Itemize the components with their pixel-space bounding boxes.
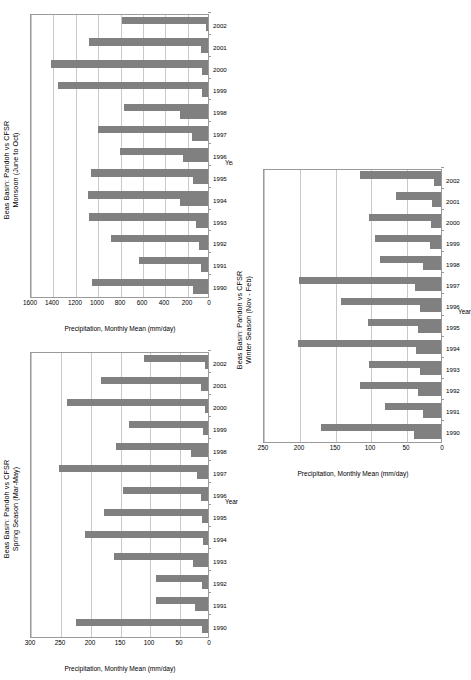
bar-pandoh-1999	[430, 242, 441, 249]
y-axis-tick-label: 1400	[45, 299, 59, 306]
x-axis-tick-label: 1992	[213, 240, 227, 247]
y-axis-tick-label: 0	[440, 444, 444, 451]
x-axis-tick-label: 2000	[213, 404, 227, 411]
bar-pandoh-1999	[202, 89, 208, 96]
bar-pandoh-1991	[423, 410, 441, 417]
y-axis-tick-label: 800	[114, 299, 125, 306]
bar-cfsr-2002	[122, 17, 208, 24]
plot-area	[263, 169, 442, 443]
x-axis-tick-label: 1998	[446, 260, 460, 267]
x-axis-tick	[208, 504, 211, 505]
bar-pandoh-1997	[197, 472, 208, 479]
bar-cfsr-1998	[124, 104, 208, 111]
gridline	[165, 15, 166, 297]
x-axis-tick-label: 1997	[446, 281, 460, 288]
x-axis-tick	[208, 252, 211, 253]
x-axis-tick	[208, 372, 211, 373]
bar-cfsr-2001	[89, 38, 208, 45]
x-axis-tick	[441, 272, 444, 273]
x-axis-tick	[208, 416, 211, 417]
bar-pandoh-2002	[434, 179, 441, 186]
bar-pandoh-1999	[203, 428, 208, 435]
x-axis-tick	[208, 165, 211, 166]
bar-pandoh-1994	[416, 347, 441, 354]
x-axis-tick-label: 1998	[213, 109, 227, 116]
bar-pandoh-1991	[195, 604, 208, 611]
x-axis-tick	[441, 399, 444, 400]
x-axis-tick	[208, 230, 211, 231]
x-axis-tick	[208, 526, 211, 527]
y-axis-tick-label: 250	[54, 639, 65, 646]
bar-pandoh-1995	[202, 516, 208, 523]
chart-spring-container: Beas Basin: Pandoh vs CFSRSpring Season …	[0, 338, 235, 680]
y-axis-tick-label: 100	[365, 444, 376, 451]
x-axis-tick	[208, 350, 211, 351]
bar-cfsr-1994	[298, 340, 441, 347]
y-axis-tick-label: 0	[207, 639, 211, 646]
bar-cfsr-2002	[360, 171, 441, 178]
x-axis-label: Year	[225, 497, 238, 504]
x-axis-tick-label: 1990	[213, 624, 227, 631]
gridline	[31, 15, 32, 297]
y-axis-tick-label: 50	[403, 444, 410, 451]
y-axis-tick-label: 200	[293, 444, 304, 451]
gridline	[61, 353, 62, 637]
bar-pandoh-1992	[418, 389, 441, 396]
bar-pandoh-1994	[203, 538, 208, 545]
bar-cfsr-1999	[129, 421, 208, 428]
bar-pandoh-1994	[180, 199, 208, 206]
bar-cfsr-1991	[156, 597, 209, 604]
x-axis-tick-label: 1999	[213, 87, 227, 94]
bar-cfsr-2001	[396, 192, 441, 199]
bar-cfsr-1994	[85, 531, 209, 538]
chart-monsoon: Beas Basin: Pandoh vs CFSRMonsoon (June …	[0, 0, 235, 340]
bar-cfsr-1998	[116, 443, 208, 450]
x-axis-tick	[441, 378, 444, 379]
x-axis-tick-label: 1991	[446, 408, 460, 415]
x-axis-tick	[441, 315, 444, 316]
x-axis-tick-label: 2001	[213, 43, 227, 50]
bar-cfsr-1994	[88, 191, 208, 198]
x-axis-tick-label: 2000	[213, 65, 227, 72]
chart-title-line2: Monsoon (June to Oct)	[11, 0, 20, 340]
x-axis-tick-label: 1992	[213, 580, 227, 587]
y-axis-tick-label: 50	[176, 639, 183, 646]
x-axis-tick-label: 2000	[446, 218, 460, 225]
y-axis-tick-label: 400	[159, 299, 170, 306]
chart-monsoon-container: Beas Basin: Pandoh vs CFSRMonsoon (June …	[0, 0, 235, 340]
bar-pandoh-1991	[201, 264, 208, 271]
chart-spring: Beas Basin: Pandoh vs CFSRSpring Season …	[0, 338, 235, 680]
y-axis-tick-label: 1000	[90, 299, 104, 306]
y-axis-tick-label: 250	[258, 444, 269, 451]
x-axis-tick	[208, 438, 211, 439]
bar-pandoh-1993	[420, 368, 441, 375]
bar-pandoh-1990	[414, 431, 441, 438]
x-axis-tick-label: 2002	[446, 176, 460, 183]
x-axis-tick	[208, 614, 211, 615]
bar-pandoh-2000	[205, 406, 208, 413]
x-axis-tick-label: 1995	[213, 174, 227, 181]
plot-area	[30, 352, 209, 638]
chart-title: Beas Basin: Pandoh vs CFSRWinter Season …	[235, 155, 253, 485]
x-axis-tick-label: 1994	[213, 536, 227, 543]
x-axis-tick-label: 1997	[213, 470, 227, 477]
bar-pandoh-2001	[201, 46, 208, 53]
x-axis-tick-label: 2002	[213, 21, 227, 28]
gridline	[91, 353, 92, 637]
chart-title-line2: Winter Season (Nov - Feb)	[244, 155, 253, 485]
bar-cfsr-2002	[144, 355, 208, 362]
bar-cfsr-1990	[321, 424, 441, 431]
x-axis-tick-label: 1995	[446, 324, 460, 331]
x-axis-tick	[208, 482, 211, 483]
bar-pandoh-1995	[193, 177, 208, 184]
bar-cfsr-1997	[59, 465, 208, 472]
x-axis-tick-label: 1991	[213, 262, 227, 269]
bar-pandoh-1998	[180, 111, 208, 118]
bar-pandoh-2002	[205, 362, 208, 369]
bar-pandoh-2000	[431, 221, 441, 228]
x-axis-tick-label: 1993	[446, 366, 460, 373]
y-axis-tick-label: 1600	[23, 299, 37, 306]
gridline	[31, 353, 32, 637]
x-axis-tick-label: 1994	[446, 345, 460, 352]
bar-cfsr-1991	[385, 403, 441, 410]
